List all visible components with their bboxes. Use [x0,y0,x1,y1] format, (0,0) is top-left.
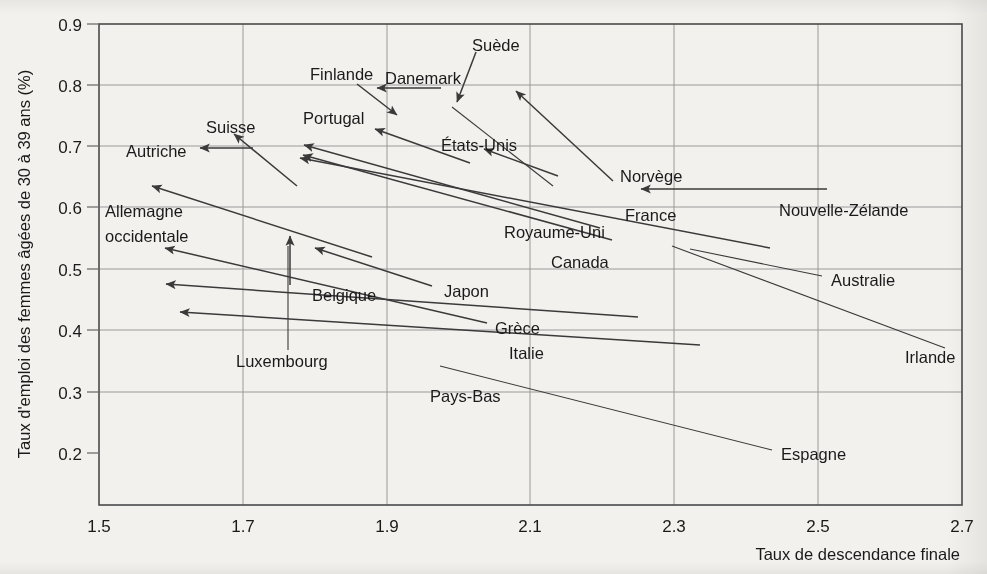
x-tick-2.1: 2.1 [518,517,542,536]
y-tick-0.8: 0.8 [58,77,82,96]
label-suisse: Suisse [206,118,256,136]
arrow-japon [315,248,432,286]
chart-figure: 0.9 0.8 0.7 0.6 0.5 0.4 0.3 0.2 1.5 1.7 … [0,0,987,574]
x-tick-2.3: 2.3 [662,517,686,536]
label-danemark: Danemark [385,69,462,87]
scatter-plot-svg: 0.9 0.8 0.7 0.6 0.5 0.4 0.3 0.2 1.5 1.7 … [0,0,987,574]
label-irlande: Irlande [905,348,955,366]
y-tick-0.4: 0.4 [58,322,82,341]
leader-irlande [672,246,945,348]
y-tick-0.9: 0.9 [58,16,82,35]
x-tick-1.5: 1.5 [87,517,111,536]
x-axis-title: Taux de descendance finale [755,545,960,563]
label-norvege: Norvège [620,167,682,185]
label-canada: Canada [551,253,610,271]
y-tick-0.3: 0.3 [58,384,82,403]
label-portugal: Portugal [303,109,364,127]
y-axis-title: Taux d'emploi des femmes âgées de 30 à 3… [15,70,33,458]
label-pays-bas: Pays-Bas [430,387,501,405]
arrow-connectors [152,52,945,450]
label-italie: Italie [509,344,544,362]
label-suede: Suède [472,36,520,54]
y-axis-tickmarks [87,24,99,453]
label-australie: Australie [831,271,895,289]
label-royaume-uni: Royaume-Uni [504,223,605,241]
x-tick-2.7: 2.7 [950,517,974,536]
label-allemagne-line2: occidentale [105,227,188,245]
label-nouvelle-zelande: Nouvelle-Zélande [779,201,908,219]
label-finlande: Finlande [310,65,373,83]
x-tick-1.7: 1.7 [231,517,255,536]
label-france: France [625,206,676,224]
y-tick-0.5: 0.5 [58,261,82,280]
label-grece: Grèce [495,319,540,337]
arrow-pays-bas [180,312,700,345]
arrow-allemagne [152,186,372,257]
x-tick-1.9: 1.9 [375,517,399,536]
y-tick-0.6: 0.6 [58,199,82,218]
arrow-italie [166,284,638,317]
label-luxembourg: Luxembourg [236,352,328,370]
x-tick-2.5: 2.5 [806,517,830,536]
x-axis-tick-labels: 1.5 1.7 1.9 2.1 2.3 2.5 2.7 [87,517,974,536]
y-tick-0.2: 0.2 [58,445,82,464]
grid-vertical [243,24,818,505]
label-autriche: Autriche [126,142,187,160]
label-allemagne-line1: Allemagne [105,202,183,220]
leader-australie [690,249,822,276]
label-belgique: Belgique [312,286,376,304]
leader-espagne [440,366,772,450]
y-tick-0.7: 0.7 [58,138,82,157]
y-axis-tick-labels: 0.9 0.8 0.7 0.6 0.5 0.4 0.3 0.2 [58,16,82,464]
arrow-norvege [516,91,613,181]
label-japon: Japon [444,282,489,300]
label-etats-unis: États-Unis [441,136,517,154]
label-espagne: Espagne [781,445,846,463]
